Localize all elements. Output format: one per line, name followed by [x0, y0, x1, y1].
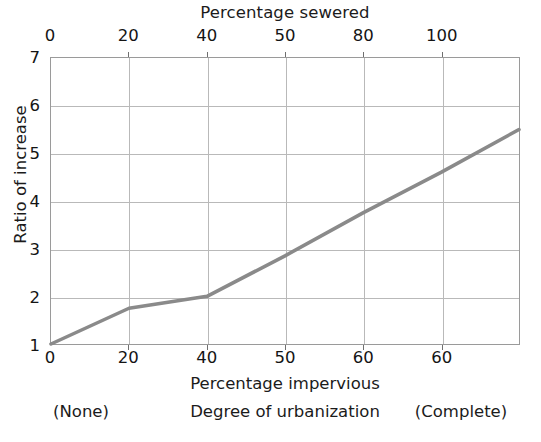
caption-none: (None)	[53, 402, 109, 421]
y-axis-title: Ratio of increase	[11, 85, 30, 265]
y-tick-label-7: 7	[30, 48, 41, 67]
bottom-axis-title: Percentage impervious	[50, 374, 520, 393]
bottom-tick-label-60-4: 60	[353, 348, 374, 367]
top-tick-label-80-4: 80	[353, 26, 374, 45]
plot-area	[50, 57, 520, 345]
top-tick-label-0-0: 0	[45, 26, 56, 45]
bottom-tick-label-0-0: 0	[45, 348, 56, 367]
series-line-ratio-of-increase	[51, 58, 519, 344]
chart-figure: Percentage sewered 020405080100 7654321 …	[0, 0, 541, 442]
y-tick-label-2: 2	[30, 287, 41, 306]
caption-complete: (Complete)	[415, 402, 507, 421]
y-tick-label-3: 3	[30, 240, 41, 259]
bottom-tick-label-60-5: 60	[431, 348, 452, 367]
caption-degree-of-urbanization: Degree of urbanization	[190, 402, 380, 421]
top-tick-label-20-1: 20	[118, 26, 139, 45]
y-tick-label-4: 4	[30, 192, 41, 211]
caption-row: (None) Degree of urbanization (Complete)	[0, 402, 541, 426]
top-tick-label-40-2: 40	[196, 26, 217, 45]
bottom-tick-label-20-1: 20	[118, 348, 139, 367]
bottom-tick-label-40-2: 40	[196, 348, 217, 367]
top-tick-label-100-5: 100	[426, 26, 458, 45]
y-tick-label-6: 6	[30, 96, 41, 115]
top-axis-title: Percentage sewered	[50, 3, 520, 22]
top-tick-label-50-3: 50	[275, 26, 296, 45]
top-tick-label-row: 020405080100	[0, 26, 541, 48]
bottom-tick-label-row: 02040506060	[0, 348, 541, 370]
bottom-tick-label-50-3: 50	[275, 348, 296, 367]
y-tick-label-5: 5	[30, 143, 41, 162]
